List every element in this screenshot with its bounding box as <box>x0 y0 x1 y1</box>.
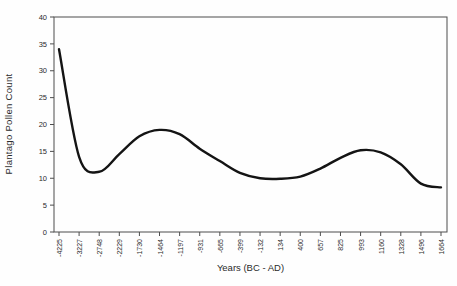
x-tick-label: -665 <box>217 239 224 253</box>
plot-border <box>54 17 447 232</box>
x-tick-label: 1496 <box>418 239 425 255</box>
x-tick-label: -1197 <box>177 239 184 256</box>
chart-canvas: 0510152025303540-4225-3227-2748-2229-173… <box>0 0 457 286</box>
y-tick-label: 30 <box>39 66 47 75</box>
x-tick-label: -3227 <box>76 239 83 257</box>
x-tick-label: -2229 <box>116 239 123 257</box>
x-tick-label: -931 <box>197 239 204 253</box>
x-tick-label: -1464 <box>157 239 164 257</box>
x-tick-label: 825 <box>337 239 344 251</box>
x-tick-label: 993 <box>358 239 365 251</box>
x-tick-label: 1664 <box>438 239 445 255</box>
y-tick-label: 5 <box>43 201 47 210</box>
x-axis-title: Years (BC - AD) <box>54 262 447 273</box>
x-tick-label: 1328 <box>398 239 405 255</box>
x-tick-label: 657 <box>317 239 324 251</box>
y-tick-label: 15 <box>39 147 47 156</box>
pollen-chart-figure: Plantago Pollen Count 0510152025303540-4… <box>0 0 457 286</box>
x-tick-label: 1160 <box>378 239 385 254</box>
x-tick-label: -132 <box>257 239 264 253</box>
y-axis-title: Plantago Pollen Count <box>3 24 17 224</box>
y-tick-label: 0 <box>43 228 47 237</box>
y-tick-label: 20 <box>39 120 47 129</box>
x-tick-label: 134 <box>277 239 284 251</box>
y-tick-label: 25 <box>39 93 47 102</box>
x-tick-label: -399 <box>237 239 244 253</box>
x-tick-label: -2748 <box>96 239 103 257</box>
x-tick-label: 400 <box>297 239 304 251</box>
y-tick-label: 40 <box>39 13 47 22</box>
y-tick-label: 35 <box>39 40 47 49</box>
x-tick-label: -1730 <box>136 239 143 257</box>
pollen-count-line <box>59 49 441 187</box>
y-tick-label: 10 <box>39 174 47 183</box>
x-tick-label: -4225 <box>56 239 63 257</box>
